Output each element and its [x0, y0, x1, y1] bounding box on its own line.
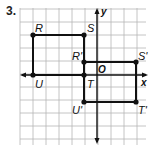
- point-label: S: [87, 22, 95, 34]
- x-axis-arrow-left-icon: [20, 73, 26, 78]
- y-axis-arrow-down-icon: [95, 138, 100, 144]
- point-label: T: [87, 78, 95, 90]
- point-u: [30, 72, 35, 77]
- point-label: U': [72, 104, 83, 116]
- point-t: [81, 72, 86, 77]
- point-s: [81, 32, 86, 37]
- y-axis-label: y: [100, 6, 107, 17]
- point-label: R': [72, 50, 83, 62]
- coordinate-grid-figure: x y O RSUTR'S'U'T': [0, 0, 152, 151]
- point-u-prime: [81, 99, 86, 104]
- point-label: S': [138, 50, 148, 62]
- point-label: U: [35, 78, 43, 90]
- origin-label: O: [98, 64, 106, 75]
- rectangles: [33, 35, 136, 102]
- point-r-prime: [81, 59, 86, 64]
- x-axis-label: x: [140, 77, 147, 88]
- point-label: T': [138, 104, 148, 116]
- point-label: R: [35, 22, 43, 34]
